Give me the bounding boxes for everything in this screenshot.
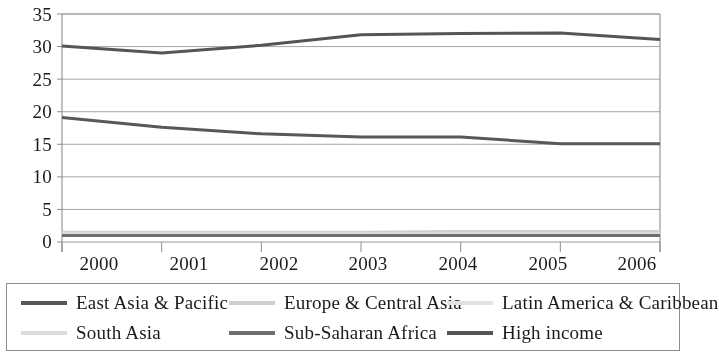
plot-canvas <box>0 0 691 282</box>
legend-swatch-icon <box>229 301 275 305</box>
legend-item-label: Latin America & Caribbean <box>502 293 719 313</box>
legend-item-sub-saharan-africa: Sub-Saharan Africa <box>229 318 437 348</box>
legend-swatch-icon <box>229 331 275 335</box>
legend-item-europe-central-asia: Europe & Central Asia <box>229 288 462 318</box>
legend-swatch-icon <box>447 331 493 335</box>
legend-swatch-icon <box>21 331 67 335</box>
legend-swatch-icon <box>447 301 493 305</box>
legend-item-south-asia: South Asia <box>21 318 161 348</box>
legend-item-label: High income <box>502 323 603 343</box>
plot-area: 35 30 25 20 15 10 5 0 2000 2001 2002 200… <box>0 0 691 282</box>
legend: East Asia & Pacific Europe & Central Asi… <box>6 283 680 351</box>
legend-swatch-icon <box>21 301 67 305</box>
legend-item-east-asia-pacific: East Asia & Pacific <box>21 288 228 318</box>
legend-item-latin-america-caribbean: Latin America & Caribbean <box>447 288 719 318</box>
legend-item-high-income: High income <box>447 318 603 348</box>
legend-item-label: Europe & Central Asia <box>284 293 462 313</box>
legend-item-label: Sub-Saharan Africa <box>284 323 437 343</box>
legend-item-label: South Asia <box>76 323 161 343</box>
legend-item-label: East Asia & Pacific <box>76 293 228 313</box>
legend-row: South Asia Sub-Saharan Africa High incom… <box>7 318 679 348</box>
legend-row: East Asia & Pacific Europe & Central Asi… <box>7 288 679 318</box>
